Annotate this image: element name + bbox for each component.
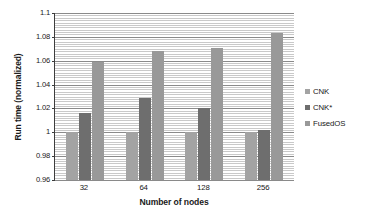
- bar[interactable]: [79, 113, 91, 180]
- x-axis-tick-label: 32: [54, 183, 114, 192]
- bar-group: [66, 13, 104, 180]
- y-axis-tick-label: 1.04: [22, 81, 50, 89]
- bar[interactable]: [211, 48, 223, 180]
- bar[interactable]: [126, 132, 138, 180]
- bar[interactable]: [271, 33, 283, 180]
- legend-swatch-icon: [305, 105, 310, 110]
- x-axis-tick-label: 64: [114, 183, 174, 192]
- legend-swatch-icon: [305, 89, 310, 94]
- x-axis-title: Number of nodes: [54, 197, 294, 207]
- bar[interactable]: [139, 98, 151, 180]
- legend-item[interactable]: CNK: [305, 83, 363, 99]
- bar[interactable]: [198, 108, 210, 180]
- bar-group: [245, 13, 283, 180]
- bar-group: [126, 13, 164, 180]
- bars-layer: [55, 13, 294, 180]
- bar-group: [185, 13, 223, 180]
- plot-area: [54, 13, 294, 181]
- y-axis-tick-label: 1: [22, 128, 50, 136]
- y-axis-tick-label: 1.02: [22, 104, 50, 112]
- bar-chart: Run time (normalized) 0.960.9811.021.041…: [0, 0, 366, 218]
- y-axis-tickmark: [52, 180, 55, 181]
- legend-label: CNK: [313, 87, 329, 96]
- y-axis-tick-label: 0.96: [22, 176, 50, 184]
- bar[interactable]: [92, 62, 104, 180]
- legend-label: FusedOS: [313, 119, 345, 128]
- y-axis-tick-label: 0.98: [22, 152, 50, 160]
- y-axis-tick-label: 1.08: [22, 33, 50, 41]
- bar[interactable]: [66, 132, 78, 180]
- x-axis-tick-label: 256: [233, 183, 293, 192]
- x-axis-tick-label: 128: [174, 183, 234, 192]
- chart-legend: CNKCNK*FusedOS: [305, 83, 363, 131]
- gridline-major: [55, 180, 294, 181]
- legend-item[interactable]: FusedOS: [305, 115, 363, 131]
- bar[interactable]: [258, 130, 270, 180]
- bar[interactable]: [185, 132, 197, 180]
- y-axis-tick-label: 1.1: [22, 9, 50, 17]
- legend-label: CNK*: [313, 103, 332, 112]
- y-axis-tick-labels: 0.960.9811.021.041.061.081.1: [22, 8, 50, 180]
- bar[interactable]: [245, 132, 257, 180]
- legend-swatch-icon: [305, 121, 310, 126]
- y-axis-tick-label: 1.06: [22, 57, 50, 65]
- x-axis-tick-labels: 3264128256: [54, 183, 294, 195]
- legend-item[interactable]: CNK*: [305, 99, 363, 115]
- bar[interactable]: [152, 51, 164, 180]
